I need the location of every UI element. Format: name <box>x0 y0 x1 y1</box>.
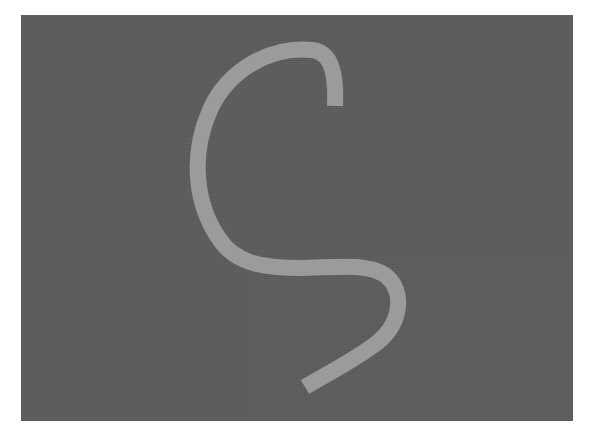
drawn-stroke <box>0 0 599 435</box>
s-curve-stroke <box>198 50 399 387</box>
